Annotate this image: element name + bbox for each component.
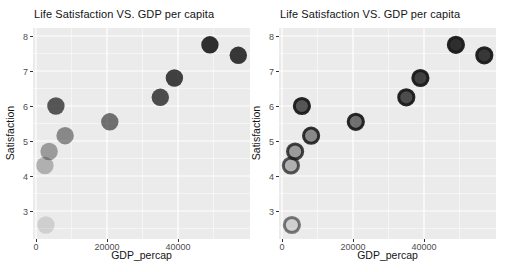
data-point <box>101 113 118 130</box>
data-point <box>413 70 428 85</box>
y-tick-mark <box>30 71 33 72</box>
plot-panel <box>279 28 496 239</box>
data-point <box>166 69 183 86</box>
scatter-canvas <box>33 28 250 239</box>
data-point <box>56 127 73 144</box>
data-point <box>294 98 309 113</box>
y-tick-mark <box>30 36 33 37</box>
data-point <box>230 47 247 64</box>
x-axis-title: GDP_percap <box>111 249 172 261</box>
y-tick-label: 4 <box>6 172 28 182</box>
y-tick-label: 7 <box>252 67 274 77</box>
x-tick-label: 0 <box>262 242 302 252</box>
data-point <box>448 37 463 52</box>
y-tick-mark <box>276 71 279 72</box>
y-tick-label: 7 <box>6 67 28 77</box>
data-point <box>47 97 64 114</box>
data-point <box>37 216 54 233</box>
data-point <box>288 144 303 159</box>
y-axis-title: Satisfaction <box>250 106 262 160</box>
data-point <box>284 217 299 232</box>
data-point <box>201 36 218 53</box>
y-tick-label: 4 <box>252 172 274 182</box>
y-tick-mark <box>276 211 279 212</box>
y-tick-mark <box>276 36 279 37</box>
y-tick-mark <box>276 106 279 107</box>
x-axis-title: GDP_percap <box>357 249 418 261</box>
figure: Life Satisfaction VS. GDP per capita 020… <box>0 0 508 272</box>
data-point <box>152 89 169 106</box>
chart-title: Life Satisfaction VS. GDP per capita <box>280 8 460 20</box>
y-tick-label: 3 <box>6 207 28 217</box>
plot-right: Life Satisfaction VS. GDP per capita 020… <box>254 0 508 272</box>
data-point <box>40 143 57 160</box>
y-tick-mark <box>30 141 33 142</box>
data-point <box>348 114 363 129</box>
plot-left: Life Satisfaction VS. GDP per capita 020… <box>0 0 254 272</box>
scatter-canvas <box>279 28 496 239</box>
y-tick-mark <box>30 211 33 212</box>
x-tick-label: 0 <box>16 242 56 252</box>
plot-panel <box>33 28 250 239</box>
chart-title: Life Satisfaction VS. GDP per capita <box>34 8 214 20</box>
data-point <box>304 128 319 143</box>
y-axis-title: Satisfaction <box>4 106 16 160</box>
y-tick-mark <box>276 176 279 177</box>
y-tick-label: 3 <box>252 207 274 217</box>
y-tick-label: 8 <box>252 32 274 42</box>
y-tick-mark <box>30 176 33 177</box>
data-point <box>477 48 492 63</box>
data-point <box>399 90 414 105</box>
y-tick-mark <box>30 106 33 107</box>
y-tick-label: 8 <box>6 32 28 42</box>
y-tick-mark <box>276 141 279 142</box>
